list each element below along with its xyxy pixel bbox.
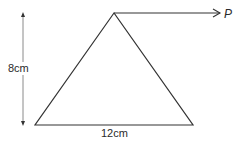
force-label: P: [224, 8, 232, 20]
arrowhead-up-icon: [21, 12, 25, 17]
triangle-diagram: [0, 0, 241, 146]
force-arrow-p: [114, 9, 220, 17]
base-label: 12cm: [101, 128, 128, 139]
arrowhead-down-icon: [21, 121, 25, 126]
triangle-shape: [35, 13, 193, 125]
height-label: 8cm: [8, 62, 29, 75]
